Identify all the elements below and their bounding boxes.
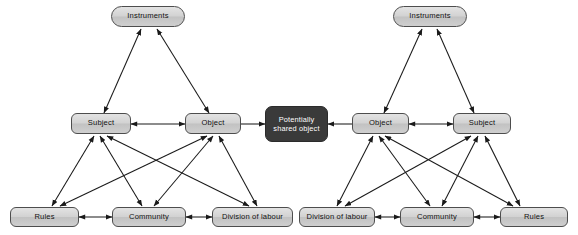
node-object-right[interactable]: Object — [352, 113, 409, 134]
edge-object-instruments-left — [157, 29, 209, 113]
diagram-canvas: Instruments Subject Object Rules Communi… — [0, 0, 578, 235]
node-object-left[interactable]: Object — [185, 113, 241, 134]
node-label: Instruments — [409, 12, 450, 21]
shared-object-line-1: Potentially — [279, 115, 315, 124]
node-potentially-shared-object[interactable]: Potentially shared object — [265, 106, 328, 142]
node-community-left[interactable]: Community — [112, 207, 186, 227]
node-community-right[interactable]: Community — [400, 207, 474, 227]
node-label: Object — [369, 119, 392, 128]
node-label: Community — [417, 213, 457, 222]
node-division-of-labour-right[interactable]: Division of labour — [299, 207, 375, 227]
edge-object-instruments-right — [384, 29, 422, 113]
node-instruments-right[interactable]: Instruments — [393, 6, 467, 27]
edge-subject-instruments-left — [104, 29, 141, 113]
node-label: Community — [129, 213, 169, 222]
node-label: Division of labour — [307, 213, 368, 222]
node-division-of-labour-left[interactable]: Division of labour — [212, 207, 293, 227]
node-label: Rules — [34, 213, 54, 222]
edge-subject-rules-left — [52, 136, 94, 206]
node-subject-left[interactable]: Subject — [71, 113, 131, 134]
node-label: Subject — [469, 119, 495, 128]
node-label: Rules — [524, 213, 544, 222]
edge-subject-division-right — [345, 136, 471, 206]
edge-subject-instruments-right — [437, 29, 474, 113]
edge-subject-rules-right — [485, 136, 520, 206]
node-label: Instruments — [127, 12, 168, 21]
node-label: Division of labour — [222, 213, 283, 222]
node-label: Subject — [88, 119, 114, 128]
node-rules-left[interactable]: Rules — [10, 207, 79, 227]
edge-subject-division-left — [107, 136, 249, 206]
edge-subject-community-right — [442, 136, 478, 206]
node-rules-right[interactable]: Rules — [500, 207, 568, 227]
edge-subject-community-left — [100, 136, 142, 206]
edge-object-division-left — [219, 136, 257, 206]
node-label: Object — [202, 119, 225, 128]
edge-object-rules-left — [60, 136, 207, 206]
edge-object-community-left — [154, 136, 213, 206]
edge-object-division-right — [337, 136, 373, 206]
node-subject-right[interactable]: Subject — [453, 113, 511, 134]
shared-object-line-2: shared object — [273, 124, 319, 133]
node-instruments-left[interactable]: Instruments — [111, 6, 185, 27]
